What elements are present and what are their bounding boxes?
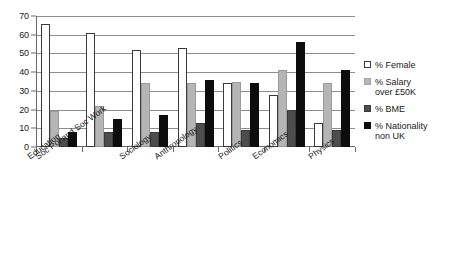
chart-legend: % Female% Salary over £50K% BME% Nationa… <box>364 60 453 148</box>
y-axis-tick-label: 20 <box>19 105 29 114</box>
bar <box>341 70 350 147</box>
legend-swatch-icon <box>364 78 371 85</box>
legend-label: % Nationality non UK <box>375 121 428 141</box>
bar <box>104 132 113 147</box>
y-axis: 706050403020100 <box>0 16 36 147</box>
bar-chart: 706050403020100 EducationSoc Pol and Soc… <box>0 0 453 253</box>
y-axis-tick-label: 50 <box>19 49 29 58</box>
bar-group <box>309 16 355 147</box>
legend-swatch-icon <box>364 105 371 112</box>
bar-group <box>127 16 173 147</box>
legend-label: % Female <box>375 60 416 70</box>
bar <box>296 42 305 147</box>
bar <box>132 50 141 147</box>
bar-group <box>218 16 264 147</box>
y-axis-tick-label: 40 <box>19 68 29 77</box>
bar <box>223 83 232 147</box>
legend-item: % Nationality non UK <box>364 121 453 141</box>
bar <box>86 33 95 147</box>
y-axis-tick-label: 10 <box>19 124 29 133</box>
legend-item: % Female <box>364 60 453 70</box>
legend-item: % BME <box>364 104 453 114</box>
x-axis-labels: EducationSoc Pol and Soc WorkSociologyAn… <box>36 150 366 250</box>
bar <box>287 110 296 147</box>
bar <box>113 119 122 147</box>
bar-group <box>264 16 310 147</box>
bar <box>205 80 214 147</box>
bar <box>196 123 205 147</box>
legend-swatch-icon <box>364 122 371 129</box>
bar <box>250 83 259 147</box>
y-axis-tick-label: 30 <box>19 86 29 95</box>
bar <box>41 24 50 148</box>
y-axis-tick-label: 70 <box>19 12 29 21</box>
y-axis-tick-label: 60 <box>19 30 29 39</box>
legend-item: % Salary over £50K <box>364 77 453 97</box>
legend-label: % BME <box>375 104 405 114</box>
legend-label: % Salary over £50K <box>375 77 416 97</box>
legend-swatch-icon <box>364 61 371 68</box>
bar-group <box>82 16 128 147</box>
